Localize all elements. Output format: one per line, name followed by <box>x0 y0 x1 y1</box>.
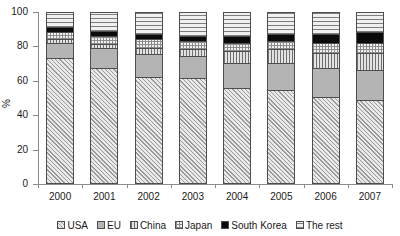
bar-segment <box>268 42 294 51</box>
bar-group <box>356 12 384 184</box>
bar-segment <box>357 33 383 43</box>
bar-segment <box>357 101 383 183</box>
x-tick-mark <box>82 184 83 188</box>
x-tick-mark <box>259 184 260 188</box>
bar-segment <box>91 69 117 183</box>
bar-segment <box>136 78 162 183</box>
legend-item[interactable]: USA <box>57 220 88 231</box>
legend-swatch <box>296 221 304 229</box>
bar-stack <box>312 12 340 184</box>
legend-swatch <box>97 221 105 229</box>
legend-label: China <box>140 220 166 231</box>
x-axis-labels: 20002001200220032004200520062007 <box>38 191 392 205</box>
bar-segment <box>224 89 250 183</box>
bars-layer <box>38 12 392 184</box>
bar-segment <box>313 13 339 35</box>
bar-segment <box>136 49 162 56</box>
bar-stack <box>90 12 118 184</box>
bar-segment <box>268 91 294 183</box>
stacked-bar-chart: % 020406080100 2000200120022003200420052… <box>0 0 400 236</box>
bar-segment <box>313 98 339 183</box>
y-tick-label: 80 <box>17 41 28 51</box>
x-tick-label: 2007 <box>348 191 392 203</box>
bar-segment <box>357 54 383 71</box>
x-tick-label: 2004 <box>215 191 259 203</box>
bar-segment <box>180 57 206 79</box>
bar-group <box>179 12 207 184</box>
y-tick-label: 100 <box>11 7 28 17</box>
bar-segment <box>224 13 250 37</box>
bar-segment <box>357 44 383 54</box>
bar-segment <box>180 13 206 37</box>
bar-segment <box>357 13 383 33</box>
legend-item[interactable]: China <box>130 220 166 231</box>
x-tick-mark <box>171 184 172 188</box>
x-tick-label: 2001 <box>82 191 126 203</box>
bar-stack <box>267 12 295 184</box>
x-tick-mark <box>38 184 39 188</box>
legend-label: South Korea <box>231 220 287 231</box>
bar-stack <box>46 12 74 184</box>
bar-segment <box>268 50 294 64</box>
bar-segment <box>136 55 162 77</box>
y-tick-label: 40 <box>17 110 28 120</box>
legend-label: EU <box>107 220 121 231</box>
legend-swatch <box>221 221 229 229</box>
x-tick-label: 2003 <box>171 191 215 203</box>
x-tick-mark <box>304 184 305 188</box>
bar-segment <box>313 69 339 98</box>
bar-segment <box>313 54 339 69</box>
y-tick-label: 0 <box>22 179 28 189</box>
bar-segment <box>180 42 206 51</box>
bar-segment <box>268 64 294 91</box>
bar-segment <box>91 49 117 69</box>
x-tick-mark <box>348 184 349 188</box>
bar-group <box>267 12 295 184</box>
bar-segment <box>357 71 383 102</box>
bar-segment <box>224 44 250 53</box>
x-tick-mark <box>392 184 393 188</box>
bar-segment <box>180 79 206 183</box>
legend-label: The rest <box>306 220 343 231</box>
bar-group <box>46 12 74 184</box>
legend-item[interactable]: EU <box>97 220 121 231</box>
bar-segment <box>268 35 294 42</box>
y-tick-label: 60 <box>17 76 28 86</box>
x-tick-label: 2000 <box>38 191 82 203</box>
legend-swatch <box>57 221 65 229</box>
bar-segment <box>224 64 250 90</box>
bar-group <box>312 12 340 184</box>
x-tick-label: 2005 <box>259 191 303 203</box>
bar-segment <box>268 13 294 35</box>
x-tick-label: 2006 <box>304 191 348 203</box>
bar-segment <box>47 59 73 183</box>
chart-legend: USAEUChinaJapanSouth KoreaThe rest <box>0 217 400 233</box>
bar-stack <box>223 12 251 184</box>
legend-item[interactable]: South Korea <box>221 220 287 231</box>
legend-swatch <box>130 221 138 229</box>
x-tick-label: 2002 <box>127 191 171 203</box>
legend-label: USA <box>67 220 88 231</box>
bar-segment <box>224 52 250 64</box>
bar-segment <box>313 44 339 54</box>
legend-swatch <box>175 221 183 229</box>
bar-segment <box>47 13 73 28</box>
bar-stack <box>135 12 163 184</box>
bar-segment <box>313 35 339 44</box>
bar-segment <box>91 13 117 32</box>
bar-segment <box>136 40 162 49</box>
bar-segment <box>91 37 117 46</box>
bar-group <box>90 12 118 184</box>
bar-segment <box>224 37 250 44</box>
y-axis-title: % <box>2 99 12 108</box>
x-tick-mark <box>127 184 128 188</box>
bar-segment <box>136 13 162 35</box>
bar-stack <box>179 12 207 184</box>
y-tick-label: 20 <box>17 145 28 155</box>
legend-item[interactable]: The rest <box>296 220 343 231</box>
legend-item[interactable]: Japan <box>175 220 212 231</box>
x-tick-mark <box>215 184 216 188</box>
bar-segment <box>47 33 73 40</box>
bar-group <box>223 12 251 184</box>
bar-stack <box>356 12 384 184</box>
